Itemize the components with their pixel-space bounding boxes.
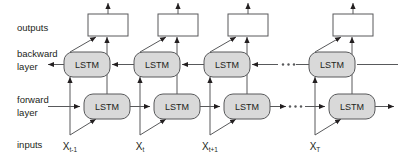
diagram-canvas: outputs backward layer forward layer inp… [0,0,402,159]
row-label-inputs: inputs [17,139,43,150]
backward-lstm-label-3: LSTM [320,60,344,70]
input-to-forward-wire-2 [210,119,236,135]
backward-lstm-label-0: LSTM [75,60,99,70]
backward-to-output-wire-3 [315,37,341,52]
forward-lstm-label-2: LSTM [235,102,259,112]
forward-lstm-label-1: LSTM [165,102,189,112]
backward-to-output-wire-0 [70,37,96,52]
input-label-2: Xt+1 [202,141,218,153]
input-to-forward-wire-3 [315,119,341,135]
backward-to-output-wire-2 [210,37,236,52]
input-to-forward-wire-0 [70,119,96,135]
input-label-3: XT [310,141,321,153]
timestep-column-1: LSTM LSTM Xt [134,3,200,153]
backward-ellipsis [282,63,295,65]
timestep-column-0: LSTM LSTM Xt-1 [63,3,130,153]
bidirectional-lstm-diagram: outputs backward layer forward layer inp… [0,0,402,159]
input-to-forward-wire-1 [140,119,166,135]
output-box-1 [158,14,198,36]
timestep-column-2: LSTM LSTM Xt+1 [202,3,270,153]
forward-ellipsis [289,105,302,107]
backward-lstm-label-2: LSTM [215,60,239,70]
timestep-column-3: LSTM LSTM XT [309,3,375,153]
row-label-forward-line1: forward [17,94,49,105]
row-label-backward-line2: layer [17,61,38,72]
forward-lstm-label-0: LSTM [95,102,119,112]
input-label-0: Xt-1 [63,141,78,153]
input-label-1: Xt [136,141,145,153]
backward-to-output-wire-1 [140,37,166,52]
output-box-0 [88,14,128,36]
row-label-backward-line1: backward [17,48,58,59]
output-box-2 [228,14,268,36]
row-label-outputs: outputs [17,22,48,33]
backward-lstm-label-1: LSTM [145,60,169,70]
forward-lstm-label-3: LSTM [340,102,364,112]
output-box-3 [333,14,373,36]
row-label-forward-line2: layer [17,107,38,118]
